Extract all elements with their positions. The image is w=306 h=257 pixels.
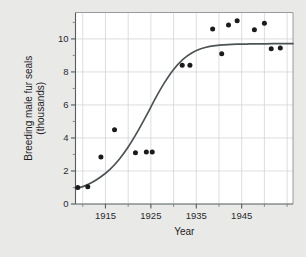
data-point xyxy=(252,27,257,32)
y-tick-label: 4 xyxy=(63,132,68,143)
data-point xyxy=(144,150,149,155)
x-tick-label: 1935 xyxy=(186,210,207,221)
data-point xyxy=(187,63,192,68)
data-point xyxy=(278,45,283,50)
y-tick-label: 8 xyxy=(63,66,68,77)
data-point xyxy=(226,22,231,27)
x-tick-label: 1945 xyxy=(231,210,252,221)
data-point xyxy=(75,185,80,190)
data-point xyxy=(133,150,138,155)
fur-seal-population-scatter-chart: 02468101915192519351945YearBreeding male… xyxy=(0,0,306,257)
data-point xyxy=(210,27,215,32)
plot-area-background xyxy=(76,13,294,205)
data-point xyxy=(269,46,274,51)
data-point xyxy=(262,21,267,26)
figure-container: 02468101915192519351945YearBreeding male… xyxy=(0,0,306,257)
data-point xyxy=(112,127,117,132)
data-point xyxy=(219,51,224,56)
x-tick-label: 1915 xyxy=(95,210,116,221)
data-point xyxy=(235,18,240,23)
y-tick-label: 10 xyxy=(58,33,69,44)
x-tick-label: 1925 xyxy=(140,210,161,221)
y-tick-label: 0 xyxy=(63,198,68,209)
data-point xyxy=(150,150,155,155)
data-point xyxy=(98,154,103,159)
y-axis-title-line1: Breeding male fur seals xyxy=(23,56,34,161)
y-tick-label: 2 xyxy=(63,165,68,176)
data-point xyxy=(180,63,185,68)
data-point xyxy=(85,184,90,189)
y-tick-label: 6 xyxy=(63,99,68,110)
y-axis-title-line2: (thousands) xyxy=(35,82,46,135)
y-axis-title: Breeding male fur seals(thousands) xyxy=(23,56,46,161)
x-axis-title: Year xyxy=(174,226,195,237)
